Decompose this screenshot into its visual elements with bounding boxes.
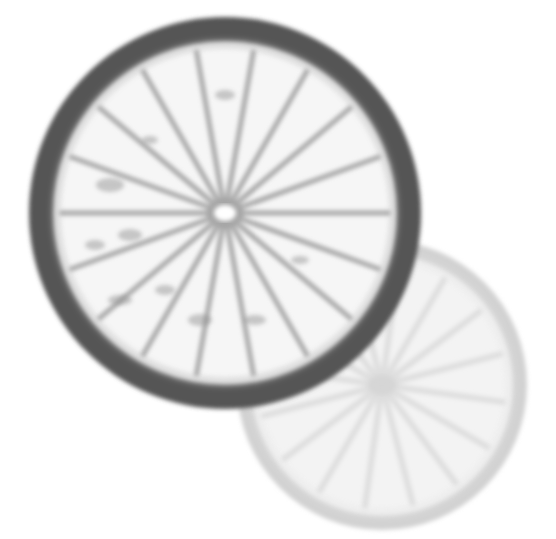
citrus-photo — [0, 0, 556, 539]
front-citrus-slice — [29, 17, 421, 409]
